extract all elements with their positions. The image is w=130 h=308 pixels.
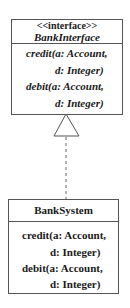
operation-debit-line2: d: Integer) [55,97,104,110]
bank-system-header: BankSystem [9,200,118,222]
operation-credit-line1: credit(a: Account, [26,47,107,60]
operation-credit-line2: d: Integer) [55,64,104,77]
operation-debit-line1: debit(a: Account, [26,80,104,93]
interface-class-header: <<interface>> BankInterface [12,20,122,44]
class-name: BankSystem [9,200,118,220]
operation-debit-line1: debit(a: Account, [22,262,103,275]
stereotype-label: <<interface>> [12,20,122,31]
operation-credit-line2: d: Integer) [50,246,100,259]
interface-name: BankInterface [12,31,122,43]
operation-debit-line2: d: Integer) [50,278,100,291]
operation-credit-line1: credit(a: Account, [22,229,106,242]
